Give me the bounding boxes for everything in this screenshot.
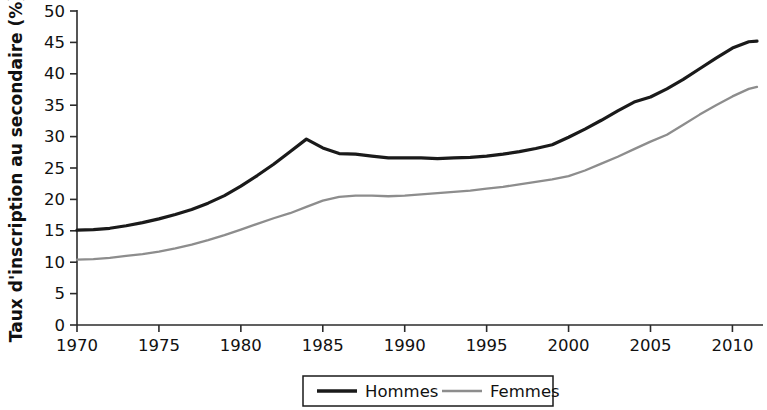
y-tick-label: 50 xyxy=(44,2,65,21)
x-tick-label: 1970 xyxy=(56,336,98,355)
y-tick-label: 45 xyxy=(44,33,65,52)
chart-container: 05101520253035404550 1970197519801985199… xyxy=(0,0,767,410)
plot-area: 05101520253035404550 1970197519801985199… xyxy=(44,2,763,356)
y-tick-label: 0 xyxy=(55,316,66,335)
x-tick-label: 2010 xyxy=(711,336,753,355)
x-tick-label: 1995 xyxy=(466,336,508,355)
series-line-femmes xyxy=(77,87,757,260)
chart-legend: HommesFemmes xyxy=(303,376,560,406)
x-tick-label: 1980 xyxy=(220,336,262,355)
x-tick-label: 2000 xyxy=(548,336,590,355)
y-tick-label: 10 xyxy=(44,253,65,272)
data-series-group xyxy=(77,41,757,260)
y-axis-title: Taux d'inscription au secondaire (%) xyxy=(6,0,26,342)
y-tick-label: 35 xyxy=(44,96,65,115)
y-axis-ticks: 05101520253035404550 xyxy=(44,2,77,335)
legend-label-femmes: Femmes xyxy=(490,382,560,401)
line-chart: 05101520253035404550 1970197519801985199… xyxy=(0,0,767,410)
x-axis-ticks: 197019751980198519901995200020052010 xyxy=(56,325,753,355)
y-tick-label: 40 xyxy=(44,64,65,83)
x-tick-label: 1990 xyxy=(384,336,426,355)
y-tick-label: 30 xyxy=(44,127,65,146)
y-tick-label: 20 xyxy=(44,190,65,209)
x-tick-label: 1985 xyxy=(302,336,344,355)
y-tick-label: 15 xyxy=(44,221,65,240)
series-line-hommes xyxy=(77,41,757,230)
y-tick-label: 5 xyxy=(55,284,66,303)
x-tick-label: 2005 xyxy=(629,336,671,355)
x-tick-label: 1975 xyxy=(138,336,180,355)
y-tick-label: 25 xyxy=(44,159,65,178)
legend-label-hommes: Hommes xyxy=(365,382,438,401)
